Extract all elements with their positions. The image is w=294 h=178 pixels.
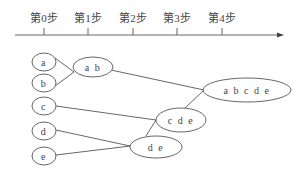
node-cde: c d e — [156, 108, 206, 132]
step-label-3: 第3步 — [163, 11, 191, 24]
step-label-2: 第2步 — [119, 11, 147, 24]
svg-text:d e: d e — [148, 142, 164, 153]
node-ab: a b — [73, 57, 113, 77]
axis-arrow-icon — [277, 33, 284, 38]
node-b: b — [32, 74, 56, 92]
node-a: a — [32, 53, 56, 71]
step-axis: 第0步 第1步 第2步 第3步 第4步 — [15, 11, 284, 38]
edge-d-de — [56, 130, 130, 146]
edge-b-ab — [55, 72, 74, 86]
svg-text:a b: a b — [85, 62, 101, 73]
svg-text:a b c d e: a b c d e — [224, 85, 271, 96]
edge-ab-abcde — [111, 70, 204, 90]
clustering-diagram: 第0步 第1步 第2步 第3步 第4步 a b c d e a b — [0, 0, 294, 178]
node-c: c — [32, 97, 56, 115]
svg-text:b: b — [41, 78, 48, 89]
node-d: d — [32, 122, 56, 140]
edge-a-ab — [55, 58, 74, 72]
edge-c-cde — [56, 106, 156, 120]
svg-text:e: e — [41, 151, 47, 162]
edge-de-cde — [146, 120, 156, 136]
svg-text:a: a — [41, 57, 47, 68]
node-e: e — [32, 147, 56, 165]
edge-cde-abcde — [185, 90, 204, 108]
svg-text:c d e: c d e — [168, 115, 194, 126]
edge-e-de — [56, 146, 130, 155]
step-label-4: 第4步 — [208, 11, 236, 24]
svg-text:c: c — [41, 101, 47, 112]
step-label-1: 第1步 — [74, 11, 102, 24]
node-abcde: a b c d e — [203, 78, 291, 102]
svg-text:d: d — [41, 126, 48, 137]
step-label-0: 第0步 — [30, 11, 58, 24]
node-de: d e — [130, 136, 182, 158]
